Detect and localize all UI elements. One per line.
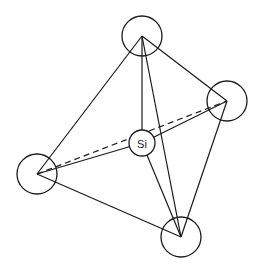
- edge-right-bottom: [181, 101, 227, 237]
- bond-si-left: [37, 143, 142, 174]
- silicon-atom: Si: [129, 130, 155, 156]
- edge-top-left: [37, 36, 142, 174]
- edge-top-right: [142, 36, 227, 101]
- silicon-atom-label: Si: [137, 138, 147, 150]
- tetrahedron-diagram: Si: [0, 0, 260, 269]
- bond-si-right: [142, 101, 227, 143]
